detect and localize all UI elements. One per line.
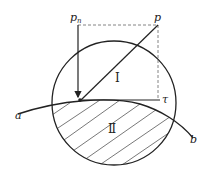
circle <box>52 41 176 165</box>
label-tau: τ <box>162 93 169 106</box>
label-region-i: Ⅰ <box>115 71 120 85</box>
label-region-ii: Ⅱ <box>108 122 116 136</box>
yield-surface-diagram: pn p τ a b Ⅰ Ⅱ <box>0 0 207 173</box>
contact-point <box>78 98 82 102</box>
label-a: a <box>15 109 22 122</box>
label-pn: pn <box>70 11 82 25</box>
label-b: b <box>190 133 197 146</box>
label-p: p <box>154 11 161 24</box>
vector-p <box>81 25 158 100</box>
